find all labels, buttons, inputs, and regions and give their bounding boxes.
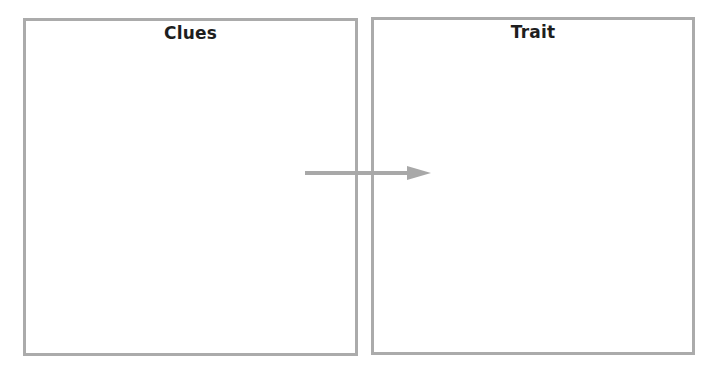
clues-box: Clues [23,18,358,356]
trait-box: Trait [371,17,695,355]
trait-title: Trait [374,22,692,42]
arrow-right-icon [303,163,435,183]
clues-title: Clues [26,23,355,43]
